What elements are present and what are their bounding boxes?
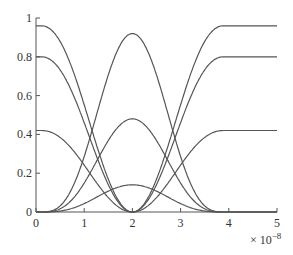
x-tick-label: 5 [274,216,280,230]
x-tick-label: 4 [226,216,232,230]
x-tick-label: 3 [178,216,184,230]
y-tick-label: 1 [26,11,32,25]
y-tick-label: 0.4 [17,127,32,141]
x-tick-label: 1 [81,216,87,230]
x-tick-label: 0 [33,216,39,230]
x-exponent-label: × 10−8 [250,231,282,247]
y-tick-label: 0.8 [17,50,32,64]
plot-area: 01234500.20.40.60.81× 10−8 [0,0,293,255]
x-tick-label: 2 [129,216,135,230]
y-tick-label: 0.6 [17,89,32,103]
y-tick-label: 0.2 [17,166,32,180]
chart: 01234500.20.40.60.81× 10−8 [0,0,293,255]
y-tick-label: 0 [26,205,32,219]
